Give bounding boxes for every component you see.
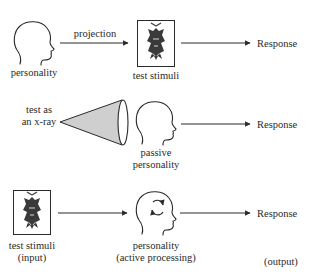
x-ray-label-line2: an x-ray xyxy=(16,116,62,128)
head-icon xyxy=(136,192,176,235)
cone-lens-icon xyxy=(118,100,128,145)
row-projective xyxy=(14,21,250,67)
passive-label-line2: personality xyxy=(124,159,188,171)
active-processing-label: (active processing) xyxy=(106,252,206,264)
personality-testing-diagram: personality projection test stimuli Resp… xyxy=(0,0,312,275)
personality-label: personality xyxy=(6,67,62,79)
response-label: Response xyxy=(257,38,297,50)
response-label: Response xyxy=(257,119,297,131)
row-processing xyxy=(14,191,251,236)
test-stimuli-label: test stimuli xyxy=(128,70,184,82)
head-icon xyxy=(136,102,176,145)
passive-label-line1: passive xyxy=(128,147,184,159)
x-ray-label-line1: test as xyxy=(16,104,62,116)
projection-label: projection xyxy=(70,28,120,40)
test-stimuli-label-line1: test stimuli xyxy=(2,240,62,252)
personality-label: personality xyxy=(114,240,198,252)
response-label: Response xyxy=(257,208,297,220)
cone-icon xyxy=(60,100,122,145)
head-icon xyxy=(14,22,54,65)
row-x-ray xyxy=(60,100,250,145)
output-label: (output) xyxy=(264,256,298,268)
input-label: (input) xyxy=(2,252,62,264)
cycle-arrows-icon xyxy=(152,200,163,215)
